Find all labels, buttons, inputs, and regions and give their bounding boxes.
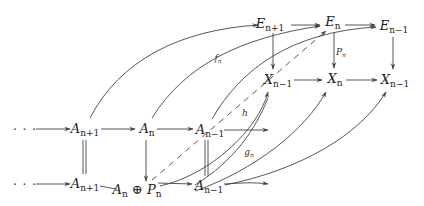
curve-A-row1-left-to-E-top-left: [90, 25, 258, 118]
node-E-n: En: [325, 15, 340, 31]
arrow-sum-to-A-row2-right: [158, 183, 192, 184]
curve-h-A-row1-right-to-X-mid-left: [195, 98, 268, 185]
curve-A-row1-right-to-E-top-right: [212, 27, 376, 119]
curve-f-n-A-row1-mid-to-E-top-mid: [152, 26, 320, 118]
node-A-n-plus-1-row1: An+1: [71, 122, 99, 138]
label-g-n: gn: [244, 147, 254, 158]
label-P-n: Pn: [336, 47, 346, 58]
curve-A-row2-right-to-X-mid-right: [225, 92, 386, 185]
commutative-diagram: · · · · · · En+1 En En−1 Xn−1 Xn Xn−1 An…: [0, 0, 424, 206]
node-E-n-plus-1: En+1: [256, 17, 285, 33]
ellipsis-row2: · · ·: [13, 178, 37, 192]
dashed-arrow-sum-to-E-n: [152, 31, 326, 180]
node-A-n-row1: An: [139, 122, 154, 138]
node-A-n-minus-1-row1: An−1: [196, 123, 224, 139]
diagram-arrows: [0, 0, 424, 206]
node-A-n-plus-1-row2: An+1: [71, 177, 99, 193]
label-h: h: [242, 108, 248, 118]
label-f-n: fn: [214, 53, 221, 64]
ellipsis-row1: · · ·: [13, 123, 37, 137]
node-E-n-minus-1: En−1: [380, 19, 409, 35]
node-A-n-oplus-P-n: An ⊕ Pn: [113, 183, 162, 199]
node-A-n-minus-1-row2: An−1: [195, 179, 223, 195]
node-X-n-minus-1-right: Xn−1: [381, 73, 409, 89]
node-X-n-minus-1-left: Xn−1: [264, 73, 292, 89]
node-X-n: Xn: [327, 72, 342, 88]
